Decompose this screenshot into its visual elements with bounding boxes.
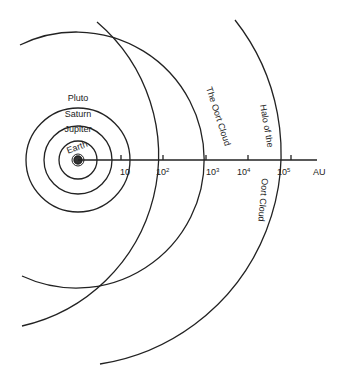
tick-label-1: 10 <box>120 167 130 177</box>
label-earth: Earth <box>65 139 89 156</box>
label-pluto: Pluto <box>68 93 89 103</box>
label-saturn: Saturn <box>65 109 92 119</box>
tick-label-4: 104 <box>237 167 251 177</box>
arc-oort-halo <box>100 20 281 364</box>
solar-system-diagram: Earth Jupiter Saturn Pluto The Oort Clou… <box>0 0 343 385</box>
axis-unit-label: AU <box>313 167 326 177</box>
label-oort-cloud: The Oort Cloud <box>204 86 233 148</box>
tick-label-3: 103 <box>206 167 220 177</box>
label-halo-line2: Oort Cloud <box>256 178 270 222</box>
label-jupiter: Jupiter <box>64 124 91 134</box>
label-halo-line1: Halo of the <box>258 104 275 149</box>
tick-label-5: 105 <box>277 167 291 177</box>
tick-label-2: 102 <box>156 167 170 177</box>
